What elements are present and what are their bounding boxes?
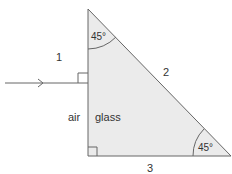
prism-diagram: 45° 45° 1 2 3 air glass bbox=[0, 0, 232, 174]
face-2-label: 2 bbox=[163, 66, 169, 78]
medium-air-label: air bbox=[68, 111, 81, 123]
angle-top-label: 45° bbox=[91, 31, 106, 42]
face-1-label: 1 bbox=[56, 51, 62, 63]
angle-bottom-label: 45° bbox=[198, 142, 213, 153]
face-3-label: 3 bbox=[147, 162, 153, 174]
glass-prism bbox=[88, 9, 231, 156]
medium-glass-label: glass bbox=[95, 111, 121, 123]
right-angle-marker-incidence bbox=[78, 73, 88, 83]
